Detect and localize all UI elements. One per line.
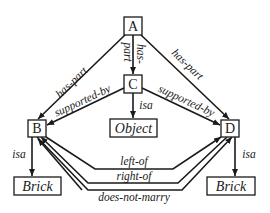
label-c-d: supported-by [156,82,217,120]
semantic-network-diagram: has-part part has- has-part supported-by… [0,0,270,213]
label-does-not-marry: does-not-marry [98,191,170,204]
node-brick-left: Brick [14,177,61,195]
node-d-label: D [225,121,235,136]
node-a: A [124,17,142,35]
label-b-brick: isa [12,148,26,160]
label-a-d: has-part [169,46,207,83]
node-brick-left-label: Brick [22,179,53,194]
node-c: C [124,75,142,93]
label-a-c-part: part [121,41,134,62]
node-object-label: Object [115,121,153,136]
node-brick-right: Brick [207,177,255,195]
node-b-label: B [32,121,41,136]
node-object: Object [110,119,157,137]
node-c-label: C [128,77,137,92]
label-right-of: right-of [116,170,153,183]
node-a-label: A [128,19,139,34]
label-a-c-has: has- [135,44,147,64]
node-brick-right-label: Brick [216,179,247,194]
label-d-brick: isa [242,148,256,160]
label-c-object: isa [139,99,153,111]
label-left-of: left-of [120,155,149,168]
node-d: D [221,120,239,137]
node-b: B [28,120,46,137]
